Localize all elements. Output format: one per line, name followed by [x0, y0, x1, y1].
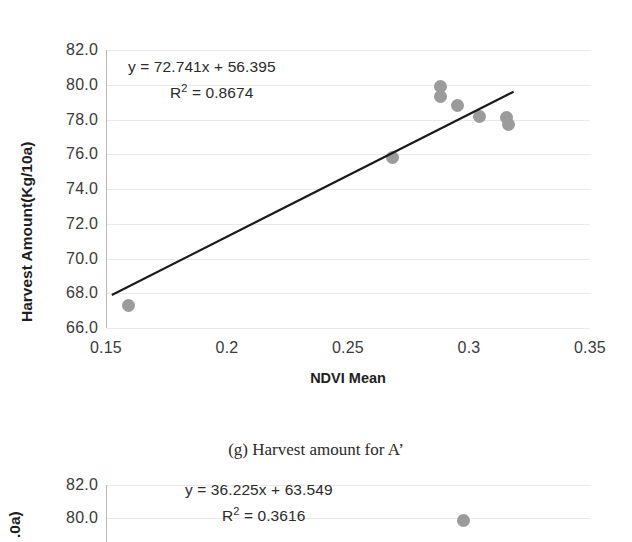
y-axis-tick-label: 78.0	[40, 112, 98, 128]
y-axis-tick-label: 68.0	[40, 285, 98, 301]
x-axis-tick-label: 0.2	[192, 340, 262, 356]
data-point-second	[457, 514, 470, 527]
gridline-second	[107, 518, 590, 519]
x-axis-title: NDVI Mean	[106, 370, 590, 386]
y-axis-tick-label: 66.0	[40, 320, 98, 336]
y-axis-tick-label: 74.0	[40, 181, 98, 197]
r-squared-label: R2 = 0.8674	[170, 82, 254, 102]
y-axis-tick-label: 82.0	[40, 42, 98, 58]
y-axis-tick-label: 70.0	[40, 251, 98, 267]
y-axis-tick-label-second: 80.0	[40, 510, 98, 526]
figure-caption: (g) Harvest amount for A’	[0, 440, 632, 460]
regression-equation-label-second: y = 36.225x + 63.549	[185, 481, 333, 499]
y-axis-tick-label: 80.0	[40, 77, 98, 93]
y-axis-title-partial: .0a)	[6, 511, 24, 538]
x-axis-tick-label: 0.15	[71, 340, 141, 356]
chart-panel-second: .0a) 82.080.0 y = 36.225x + 63.549 R2 = …	[0, 475, 632, 542]
x-axis-tick-label: 0.35	[555, 340, 625, 356]
regression-equation-label: y = 72.741x + 56.395	[128, 58, 276, 76]
chart-panel-main: Harvest Amount(Kg/10a) 66.068.070.072.07…	[0, 0, 632, 400]
gridline	[107, 328, 590, 329]
y-axis-title: Harvest Amount(Kg/10a)	[18, 142, 36, 322]
gridline-second	[107, 485, 590, 486]
y-axis-tick-label: 76.0	[40, 146, 98, 162]
y-axis-tick-label-second: 82.0	[40, 477, 98, 493]
plot-area-second	[106, 485, 590, 542]
y-axis-tick-label: 72.0	[40, 216, 98, 232]
x-axis-tick-label: 0.25	[313, 340, 383, 356]
r-squared-label-second: R2 = 0.3616	[222, 505, 306, 525]
x-axis-tick-label: 0.3	[434, 340, 504, 356]
